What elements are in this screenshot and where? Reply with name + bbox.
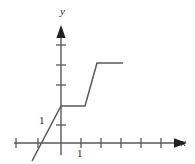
x-axis-label: x [181, 137, 186, 148]
y-axis-label: y [60, 6, 65, 17]
y-axis-arrow-icon [56, 25, 65, 38]
x-unit-tick-label: 1 [77, 148, 83, 159]
y-unit-tick-label: 1 [39, 115, 45, 126]
graph-figure: y x 1 1 [0, 0, 195, 164]
graph-canvas [0, 0, 195, 164]
